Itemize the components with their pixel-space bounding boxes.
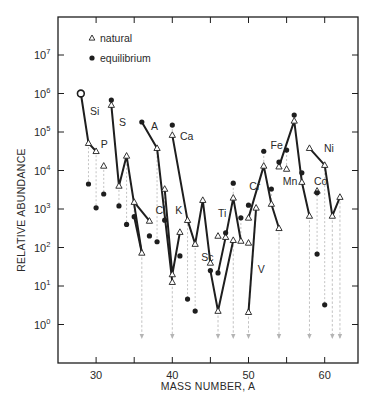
natural-point bbox=[245, 215, 251, 221]
data-points bbox=[77, 90, 343, 314]
legend-dot-icon bbox=[89, 55, 94, 60]
dashed-connectors bbox=[88, 125, 324, 311]
equilibrium-point bbox=[314, 190, 319, 195]
natural-point bbox=[123, 153, 129, 159]
chain-line-v bbox=[249, 208, 257, 312]
abundance-chart: 30405060100101102103104105106107 SiPSClA… bbox=[0, 0, 369, 405]
element-label-p: P bbox=[101, 138, 108, 150]
element-label-ni: Ni bbox=[324, 142, 334, 154]
element-label-si: Si bbox=[90, 105, 99, 117]
natural-point bbox=[177, 229, 183, 235]
element-label-cl: Cl bbox=[156, 204, 166, 216]
equilibrium-point bbox=[185, 296, 190, 301]
equilibrium-point bbox=[101, 191, 106, 196]
down-arrow-icon bbox=[231, 334, 235, 339]
natural-point bbox=[139, 250, 145, 256]
equilibrium-point bbox=[193, 308, 198, 313]
y-tick-label: 105 bbox=[34, 124, 50, 138]
legend-label-natural: natural bbox=[100, 32, 132, 44]
equilibrium-point bbox=[322, 302, 327, 307]
equilibrium-point bbox=[246, 203, 251, 208]
element-label-fe: Fe bbox=[271, 139, 283, 151]
chart-svg: 30405060100101102103104105106107 SiPSClA… bbox=[0, 0, 369, 405]
y-axis-title: RELATIVE ABUNDANCE bbox=[15, 148, 27, 272]
equilibrium-point bbox=[292, 112, 297, 117]
element-label-co: Co bbox=[314, 175, 328, 187]
element-label-sc: Sc bbox=[201, 251, 213, 263]
natural-point bbox=[192, 241, 198, 247]
equilibrium-point bbox=[261, 149, 266, 154]
plot-border bbox=[58, 17, 358, 363]
down-arrow-icon bbox=[246, 334, 250, 339]
y-tick-label: 102 bbox=[34, 240, 50, 254]
y-tick-label: 104 bbox=[34, 163, 50, 177]
element-label-mn: Mn bbox=[283, 175, 298, 187]
equilibrium-point bbox=[177, 253, 182, 258]
plot-frame bbox=[58, 17, 358, 363]
natural-point bbox=[230, 237, 236, 243]
equilibrium-point bbox=[269, 186, 274, 191]
natural-point bbox=[253, 205, 259, 211]
equilibrium-point bbox=[154, 239, 159, 244]
equilibrium-point bbox=[215, 270, 220, 275]
element-label-cr: Cr bbox=[249, 180, 261, 192]
natural-point bbox=[169, 279, 175, 285]
element-label-a: A bbox=[151, 120, 158, 132]
equilibrium-point bbox=[314, 251, 319, 256]
natural-point bbox=[200, 197, 206, 203]
natural-point bbox=[306, 213, 312, 219]
y-tick-label: 101 bbox=[34, 278, 50, 292]
y-tick-label: 103 bbox=[34, 201, 50, 215]
natural-point bbox=[261, 163, 267, 169]
equilibrium-point bbox=[139, 119, 144, 124]
chain-line-fe bbox=[279, 121, 309, 216]
x-tick-label: 30 bbox=[90, 369, 102, 381]
element-label-ca: Ca bbox=[180, 130, 194, 142]
natural-point bbox=[169, 132, 175, 138]
natural-point bbox=[283, 166, 289, 172]
natural-point bbox=[245, 240, 251, 246]
legend: naturalequilibrium bbox=[89, 32, 151, 64]
down-arrow-icon bbox=[170, 334, 174, 339]
natural-point bbox=[337, 194, 343, 200]
legend-label-equilibrium: equilibrium bbox=[100, 52, 151, 64]
element-label-ti: Ti bbox=[218, 207, 226, 219]
down-arrow-icon bbox=[330, 334, 334, 339]
natural-point bbox=[238, 238, 244, 244]
equilibrium-point bbox=[147, 233, 152, 238]
equilibrium-point bbox=[86, 181, 91, 186]
natural-point bbox=[131, 199, 137, 205]
x-axis-title: MASS NUMBER, A bbox=[161, 380, 256, 392]
natural-point bbox=[299, 179, 305, 185]
natural-point bbox=[184, 217, 190, 223]
equilibrium-point bbox=[276, 159, 281, 164]
equilibrium-point bbox=[231, 181, 236, 186]
chain-line-cl-eq bbox=[134, 217, 142, 253]
equilibrium-point bbox=[94, 205, 99, 210]
y-tick-label: 100 bbox=[34, 317, 50, 331]
equilibrium-point bbox=[109, 97, 114, 102]
legend-triangle-icon bbox=[89, 35, 95, 40]
equilibrium-point bbox=[238, 215, 243, 220]
equilibrium-point bbox=[162, 218, 167, 223]
natural-point bbox=[291, 118, 297, 124]
natural-point bbox=[276, 225, 282, 231]
natural-point bbox=[306, 145, 312, 151]
natural-point bbox=[215, 308, 221, 314]
natural-point bbox=[245, 309, 251, 315]
si28-point bbox=[77, 90, 84, 97]
x-tick-label: 60 bbox=[319, 369, 331, 381]
down-arrow-icon bbox=[338, 334, 342, 339]
down-arrow-icon bbox=[277, 334, 281, 339]
natural-point bbox=[116, 183, 122, 189]
natural-point bbox=[268, 201, 274, 207]
equilibrium-point bbox=[124, 222, 129, 227]
natural-point bbox=[230, 195, 236, 201]
natural-point bbox=[329, 213, 335, 219]
down-arrow-icon bbox=[216, 334, 220, 339]
natural-point bbox=[215, 233, 221, 239]
element-label-k: K bbox=[175, 204, 182, 216]
equilibrium-point bbox=[208, 268, 213, 273]
equilibrium-point bbox=[299, 170, 304, 175]
y-tick-label: 107 bbox=[34, 47, 50, 61]
